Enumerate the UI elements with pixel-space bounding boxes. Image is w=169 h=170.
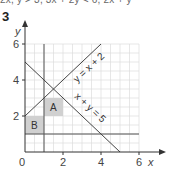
x-tick-2: 2 [60, 156, 66, 168]
inequality-graph: A B y = x + 2 x + y = 5 0 2 4 6 x 2 4 6 … [0, 0, 169, 170]
label-x-plus-y-equals-5: x + y = 5 [73, 90, 109, 125]
region-b-label: B [31, 120, 38, 131]
x-tick-0: 0 [19, 156, 25, 168]
y-tick-2: 2 [13, 110, 19, 122]
x-axis-arrow-icon [159, 149, 166, 155]
y-tick-4: 4 [13, 74, 19, 86]
x-axis-label: x [147, 156, 154, 168]
y-tick-6: 6 [13, 38, 19, 50]
axes [25, 24, 162, 152]
x-tick-4: 4 [98, 156, 104, 168]
y-axis-arrow-icon [22, 20, 28, 27]
region-a-label: A [50, 102, 57, 113]
y-axis-label: y [14, 25, 22, 37]
x-tick-6: 6 [136, 156, 142, 168]
